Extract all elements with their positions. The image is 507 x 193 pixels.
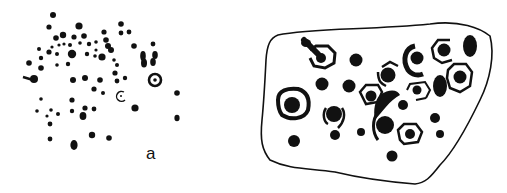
panel-b: b (240, 0, 507, 193)
panel-a: a (0, 0, 240, 193)
panel-label-a: a (146, 145, 155, 162)
panel-b-drawing (240, 0, 507, 193)
panel-a-drawing (0, 0, 240, 193)
